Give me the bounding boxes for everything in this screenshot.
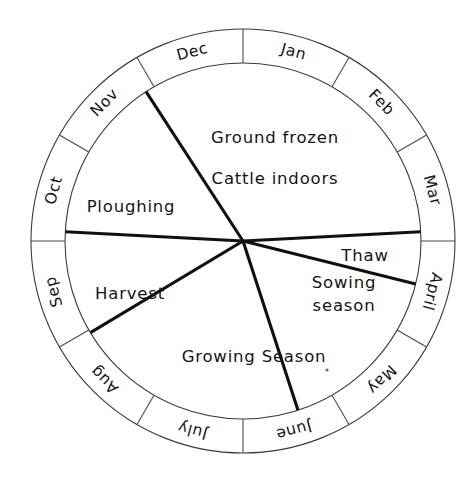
month-divider-feb — [332, 57, 349, 86]
month-divider-aug — [137, 395, 154, 424]
sector-label-thaw: Thaw — [340, 246, 388, 265]
month-divider-nov — [59, 135, 88, 152]
month-divider-may — [397, 330, 426, 347]
stray-ink-speck — [325, 368, 328, 371]
sector-label-group: Ground frozenCattle indoorsThawSowingsea… — [87, 128, 389, 366]
sector-label-winter-line-2: Cattle indoors — [212, 169, 339, 188]
month-label-july: July — [175, 418, 210, 443]
month-label-oct: Oct — [41, 174, 66, 206]
month-label-june: June — [274, 417, 315, 444]
sector-label-winter-line-1: Ground frozen — [211, 128, 339, 147]
sector-label-growing: Growing Season — [182, 347, 327, 366]
sector-divider-5 — [65, 232, 243, 241]
sector-label-sowing-line-2: season — [313, 296, 376, 315]
sector-label-sowing-line-1: Sowing — [312, 273, 376, 292]
sector-divider-0 — [146, 92, 243, 241]
sector-label-harvest: Harvest — [95, 284, 165, 303]
sector-divider-3 — [243, 241, 298, 410]
month-label-jan: Jan — [278, 39, 308, 63]
month-label-mar: Mar — [420, 173, 445, 208]
sector-label-ploughing: Ploughing — [87, 197, 176, 216]
month-divider-june — [332, 395, 349, 424]
month-label-sep: Sep — [41, 274, 66, 309]
month-divider-sep — [59, 330, 88, 347]
month-divider-dec — [137, 57, 154, 86]
month-label-dec: Dec — [175, 39, 210, 65]
month-label-april: April — [419, 271, 446, 313]
sector-divider-1 — [243, 232, 421, 241]
month-divider-mar — [397, 135, 426, 152]
wheel-diagram: JanFebMarAprilMayJuneJulyAugSepOctNovDec… — [0, 0, 474, 485]
agricultural-year-wheel-figure: JanFebMarAprilMayJuneJulyAugSepOctNovDec… — [0, 0, 474, 485]
